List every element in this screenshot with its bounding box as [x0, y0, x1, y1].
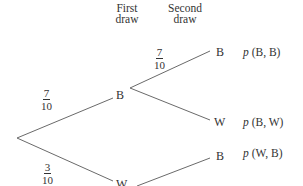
branch-root-to-b — [17, 98, 113, 138]
header-second-draw-line2: draw — [164, 14, 206, 25]
node-second-bb: B — [216, 46, 224, 58]
fraction-denominator: 10 — [42, 174, 53, 185]
fraction-denominator: 10 — [41, 100, 52, 111]
probability-tree-diagram: First draw Second draw 7 10 3 10 7 10 B … — [0, 0, 303, 186]
branch-b-to-w — [130, 88, 210, 120]
node-first-b: B — [116, 89, 124, 101]
prob-args: (B, W) — [249, 116, 284, 128]
header-first-draw: First draw — [112, 3, 142, 25]
fraction-denominator: 10 — [154, 59, 165, 70]
outcome-prob-wb: p (W, B) — [243, 147, 283, 159]
prob-args: (B, B) — [249, 46, 281, 58]
header-first-draw-line2: draw — [112, 14, 142, 25]
branch-w-to-b — [137, 158, 210, 186]
header-second-draw: Second draw — [164, 3, 206, 25]
fraction-root-to-w: 3 10 — [42, 162, 53, 185]
fraction-numerator: 3 — [44, 162, 52, 174]
fraction-root-to-b: 7 10 — [41, 88, 52, 111]
fraction-b-to-b: 7 10 — [154, 47, 165, 70]
node-second-wb: B — [216, 150, 224, 162]
node-first-w: W — [116, 178, 127, 186]
node-second-bw: W — [214, 116, 225, 128]
outcome-prob-bw: p (B, W) — [243, 116, 283, 128]
prob-args: (W, B) — [249, 147, 283, 159]
fraction-numerator: 7 — [156, 47, 164, 59]
branch-b-to-b — [130, 51, 210, 88]
fraction-numerator: 7 — [43, 88, 51, 100]
outcome-prob-bb: p (B, B) — [243, 46, 280, 58]
branch-root-to-w — [17, 138, 113, 181]
